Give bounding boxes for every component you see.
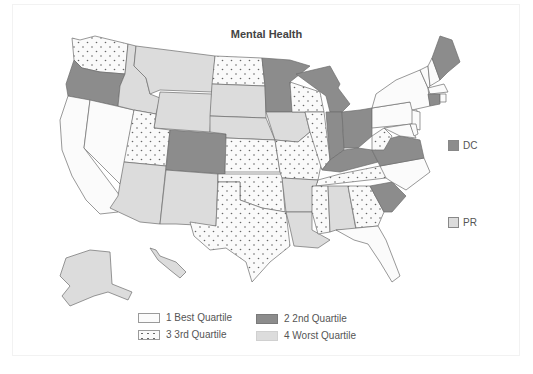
state-fl [336, 226, 400, 282]
legend-label-4: 4 Worst Quartile [284, 330, 356, 341]
state-ks [225, 138, 280, 172]
pr-swatch [448, 217, 459, 228]
legend-item-2nd: 2 2nd Quartile [256, 313, 347, 324]
legend-swatch-3 [138, 330, 160, 340]
state-sd [210, 84, 266, 118]
pr-label: PR [463, 217, 477, 228]
legend-swatch-1 [138, 313, 160, 323]
legend-item-worst: 4 Worst Quartile [256, 330, 356, 341]
legend-label-3: 3 3rd Quartile [166, 329, 227, 340]
legend-item-3rd: 3 3rd Quartile [138, 329, 227, 340]
legend-swatch-4 [256, 331, 278, 341]
state-nm [160, 170, 218, 226]
dc-swatch [448, 140, 459, 151]
inset-dc: DC [448, 140, 477, 151]
state-ms [312, 186, 330, 234]
legend: 1 Best Quartile 2 2nd Quartile 3 3rd Qua… [138, 312, 438, 346]
state-ak [60, 250, 132, 306]
legend-label-2: 2 2nd Quartile [284, 313, 347, 324]
legend-label-1: 1 Best Quartile [166, 312, 232, 323]
state-oh [342, 108, 372, 148]
legend-swatch-2 [256, 314, 278, 324]
state-co [166, 130, 226, 174]
state-ct [428, 94, 440, 106]
inset-pr: PR [448, 217, 477, 228]
dc-label: DC [463, 140, 477, 151]
state-hi [150, 248, 186, 278]
state-ri [440, 94, 446, 102]
legend-item-best: 1 Best Quartile [138, 312, 232, 323]
state-wy [154, 92, 212, 132]
state-nd [212, 56, 265, 86]
